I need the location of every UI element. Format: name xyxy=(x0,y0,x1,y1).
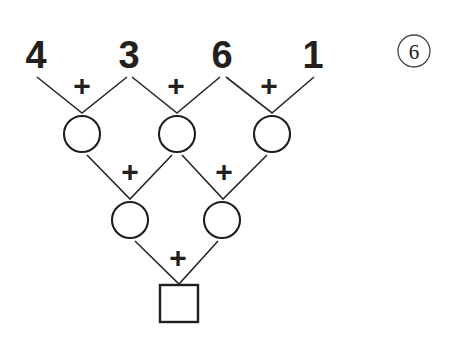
pyramid-diagram: 4 3 6 1 + + + + + + xyxy=(0,0,451,354)
answer-circle-row2-2[interactable] xyxy=(159,116,195,152)
answer-square[interactable] xyxy=(160,285,198,322)
problem-number-badge-label: 6 xyxy=(409,40,420,64)
top-number-4: 1 xyxy=(302,34,323,76)
plus-sign-row3-1: + xyxy=(169,241,187,274)
answer-circle-row2-1[interactable] xyxy=(64,116,100,152)
answer-circle-row2-3[interactable] xyxy=(254,116,290,152)
answer-circle-row3-2[interactable] xyxy=(204,202,240,238)
plus-sign-row2-2: + xyxy=(215,155,233,188)
addition-pyramid-worksheet: 4 3 6 1 + + + + + + xyxy=(0,0,451,354)
answer-circle-row3-1[interactable] xyxy=(112,202,148,238)
plus-sign-row2-1: + xyxy=(121,155,139,188)
top-number-3: 6 xyxy=(211,34,232,76)
plus-sign-row1-1: + xyxy=(73,69,91,102)
plus-sign-row1-3: + xyxy=(260,69,278,102)
top-number-2: 3 xyxy=(118,34,139,76)
plus-sign-row1-2: + xyxy=(167,69,185,102)
top-number-1: 4 xyxy=(25,34,46,76)
